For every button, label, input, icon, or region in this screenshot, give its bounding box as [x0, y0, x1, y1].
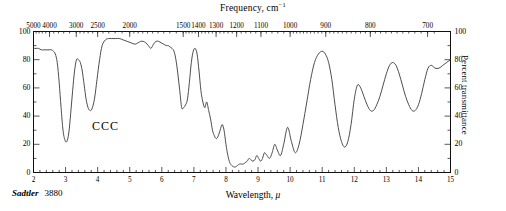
- right-tick-label-0: 0: [455, 169, 459, 177]
- right-tick-label-40: 40: [455, 112, 463, 120]
- right-tick-label-100: 100: [455, 28, 467, 36]
- right-axis-labels: 100806040200: [0, 0, 506, 211]
- right-tick-label-20: 20: [455, 140, 463, 148]
- right-tick-label-60: 60: [455, 84, 463, 92]
- ir-spectrum-figure: Frequency, cm−1 Wavelength, μ Percent tr…: [0, 0, 506, 211]
- right-tick-label-80: 80: [455, 56, 463, 64]
